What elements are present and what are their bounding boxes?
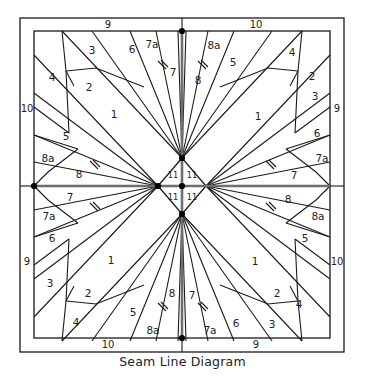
border-label-left-bottom: 9 [24, 256, 30, 267]
patch-label-tr-8: 8 [195, 74, 202, 86]
center-label-11-3: 11 [187, 192, 197, 202]
patch-label-bl-6: 6 [49, 232, 56, 244]
center-label-11-0: 11 [168, 170, 178, 180]
border-label-bottom-right: 9 [253, 339, 259, 350]
patch-label-tr-3: 3 [312, 90, 319, 102]
patch-label-br-7: 7 [189, 289, 196, 301]
patch-label-br-6: 6 [233, 317, 240, 329]
patch-label-bl-5: 5 [130, 306, 137, 318]
border-label-left-top: 10 [21, 103, 34, 114]
patch-label-bl-2: 2 [85, 287, 92, 299]
patch-label-bl-7a: 7a [42, 210, 55, 222]
border-label-right-top: 9 [334, 103, 340, 114]
junction-node [179, 335, 185, 341]
patch-label-tl-5: 5 [63, 130, 70, 142]
patch-label-tl-2: 2 [86, 81, 93, 93]
patch-label-br-8: 8 [285, 193, 292, 205]
patch-label-bl-7: 7 [67, 191, 74, 203]
patch-label-tl-7: 7 [170, 66, 177, 78]
patch-label-br-5: 5 [302, 232, 309, 244]
junction-node [155, 183, 161, 189]
patch-label-br-2: 2 [274, 287, 281, 299]
seam-line-diagram-page: 432167a758a888a5423167a777a6312458a888a5… [0, 0, 365, 387]
diagram-canvas: 432167a758a888a5423167a777a6312458a888a5… [0, 0, 365, 387]
patch-label-tl-8: 8 [76, 168, 83, 180]
patch-label-bl-8: 8 [169, 287, 176, 299]
patch-label-tl-3: 3 [89, 44, 96, 56]
patch-label-tl-8a: 8a [41, 152, 54, 164]
patch-label-tl-6: 6 [129, 43, 136, 55]
center-label-11-2: 11 [168, 192, 178, 202]
junction-node [31, 183, 37, 189]
junction-node [179, 211, 185, 217]
center-label-11-1: 11 [187, 170, 197, 180]
patch-label-br-8a: 8a [311, 210, 324, 222]
patch-label-tl-1: 1 [111, 108, 118, 120]
patch-label-tr-1: 1 [255, 110, 262, 122]
patch-label-bl-4: 4 [73, 316, 80, 328]
junction-node [179, 183, 185, 189]
patch-label-br-4: 4 [296, 298, 303, 310]
patch-label-tl-4: 4 [49, 71, 56, 83]
patch-label-br-7a: 7a [203, 324, 216, 336]
border-label-top-right: 10 [250, 19, 263, 30]
patch-label-bl-8a: 8a [146, 324, 159, 336]
patch-label-tr-7: 7 [291, 169, 298, 181]
patch-label-tr-4: 4 [289, 46, 296, 58]
seam-diagram-svg: 432167a758a888a5423167a777a6312458a888a5… [0, 0, 365, 387]
patch-label-tr-8a: 8a [207, 39, 220, 51]
patch-label-bl-3: 3 [47, 277, 54, 289]
patch-label-tr-2: 2 [309, 70, 316, 82]
figure-caption: Seam Line Diagram [0, 354, 365, 369]
patch-label-tr-7a: 7a [315, 152, 328, 164]
patch-label-br-3: 3 [269, 318, 276, 330]
patch-label-br-1: 1 [252, 255, 259, 267]
junction-node [179, 155, 185, 161]
border-label-right-bottom: 10 [331, 256, 344, 267]
patch-label-tr-6: 6 [314, 127, 321, 139]
border-label-top-left: 9 [105, 19, 111, 30]
patch-label-tr-5: 5 [230, 56, 237, 68]
patch-label-tl-7a: 7a [145, 38, 158, 50]
patch-label-bl-1: 1 [108, 254, 115, 266]
junction-node [179, 28, 185, 34]
border-label-bottom-left: 10 [102, 339, 115, 350]
